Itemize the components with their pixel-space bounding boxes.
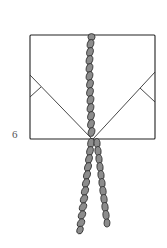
twisted-cord-right-strand [93,138,110,227]
folding-illustration [0,0,167,248]
twisted-cord-left-strand [76,138,95,235]
diagram-step-6: 6 [0,0,167,248]
step-number-label: 6 [12,128,18,140]
